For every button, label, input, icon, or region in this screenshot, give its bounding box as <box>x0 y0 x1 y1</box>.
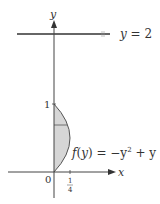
curve-label-rhs: = −y <box>93 146 128 160</box>
origin-label: 0 <box>45 174 51 185</box>
x-tick-label-num: 1 <box>68 177 72 185</box>
x-axis-arrow-icon <box>108 169 116 175</box>
line-label: y = 2 <box>119 27 152 41</box>
line-label-eq: = 2 <box>127 27 152 41</box>
y-axis-arrow-icon <box>51 20 57 28</box>
x-tick-label-den: 4 <box>68 186 73 194</box>
y-axis-label: y <box>49 8 57 21</box>
curve-label-tail: + y <box>132 146 157 160</box>
curve-label: f(y) = −y2 + y <box>71 146 156 160</box>
x-axis-label: x <box>118 166 125 179</box>
y-tick-label: 1 <box>44 99 50 110</box>
diagram-canvas: y x 0 1 1 4 y = 2 f(y) = −y2 + y <box>0 0 160 204</box>
